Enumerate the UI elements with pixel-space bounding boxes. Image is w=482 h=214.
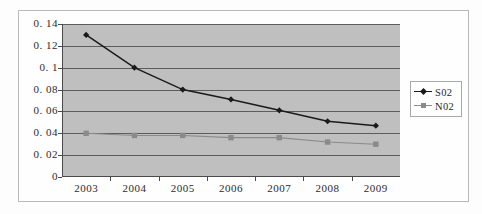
y-axis-tick-label: 0. 1 — [40, 62, 59, 73]
y-axis-tick-label: 0. 02 — [34, 149, 59, 160]
x-axis-tick-mark — [207, 177, 208, 181]
gridline — [63, 133, 400, 134]
x-axis-tick-label: 2006 — [207, 183, 255, 194]
x-axis-tick-label: 2004 — [110, 183, 158, 194]
chart-legend: S02 N02 — [410, 81, 462, 117]
y-axis-tick-label: 0. 06 — [34, 105, 59, 116]
x-axis-tick-mark — [303, 177, 304, 181]
y-axis-tick-mark — [58, 111, 62, 112]
gridline — [63, 24, 400, 25]
x-axis-tick-label: 2005 — [159, 183, 207, 194]
x-axis-tick-label: 2003 — [62, 183, 110, 194]
legend-label-so2: S02 — [432, 87, 452, 98]
square-marker-icon — [421, 103, 426, 108]
y-axis-tick-mark — [58, 46, 62, 47]
gridline — [63, 68, 400, 69]
x-axis-tick-mark — [159, 177, 160, 181]
x-axis-tick-label: 2008 — [303, 183, 351, 194]
x-axis-tick-mark — [352, 177, 353, 181]
legend-swatch-so2 — [414, 87, 432, 97]
gridline — [63, 90, 400, 91]
legend-item-no2[interactable]: N02 — [414, 99, 458, 113]
y-axis-tick-mark — [58, 155, 62, 156]
gridline — [63, 46, 400, 47]
x-axis-tick-label: 2007 — [255, 183, 303, 194]
x-axis-tick-mark — [110, 177, 111, 181]
y-axis-tick-label: 0. 14 — [34, 18, 59, 29]
y-axis-tick-mark — [58, 133, 62, 134]
legend-label-no2: N02 — [432, 101, 454, 112]
legend-item-so2[interactable]: S02 — [414, 85, 458, 99]
chart-figure: 00. 020. 040. 060. 080. 10. 120. 14 2003… — [0, 0, 482, 214]
y-axis-tick-label: 0. 08 — [34, 84, 59, 95]
x-axis-tick-label: 2009 — [352, 183, 400, 194]
plot-area — [62, 24, 400, 177]
diamond-marker-icon — [420, 88, 427, 95]
gridline — [63, 111, 400, 112]
y-axis-tick-label: 0. 12 — [34, 40, 59, 51]
y-axis-tick-label: 0. 04 — [34, 127, 59, 138]
gridline — [63, 155, 400, 156]
y-axis-tick-mark — [58, 24, 62, 25]
legend-swatch-no2 — [414, 101, 432, 111]
y-axis-tick-mark — [58, 90, 62, 91]
y-axis-tick-mark — [58, 68, 62, 69]
x-axis-tick-mark — [255, 177, 256, 181]
y-axis-tick-mark — [58, 177, 62, 178]
